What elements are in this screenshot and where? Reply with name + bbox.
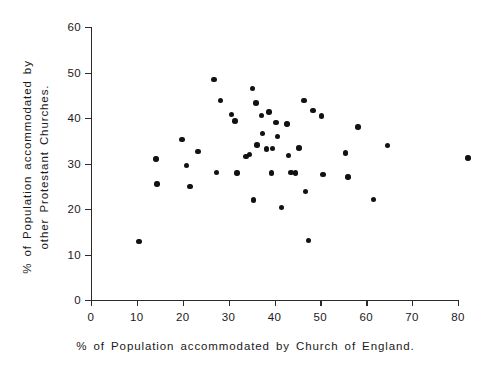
y-tick bbox=[85, 118, 91, 119]
x-tick-label: 30 bbox=[222, 311, 236, 323]
data-point bbox=[284, 121, 289, 126]
y-tick bbox=[85, 27, 91, 28]
x-tick bbox=[458, 300, 459, 306]
data-point bbox=[343, 150, 348, 155]
y-axis-label-line2: other Protestant Churches. bbox=[38, 85, 50, 250]
data-point bbox=[320, 172, 325, 177]
x-axis-label: % of Population accommodated by Church o… bbox=[0, 340, 491, 352]
x-tick bbox=[229, 300, 230, 306]
data-point bbox=[269, 170, 274, 175]
scatter-plot-figure: 0102030405060 01020304050607080 % of Pop… bbox=[0, 0, 491, 375]
x-tick-label: 50 bbox=[314, 311, 328, 323]
y-tick-label: 40 bbox=[67, 112, 81, 124]
data-point bbox=[345, 174, 350, 179]
y-axis-line bbox=[91, 27, 92, 300]
data-point bbox=[229, 112, 234, 117]
x-tick-label: 80 bbox=[451, 311, 465, 323]
data-point bbox=[266, 109, 271, 114]
plot-area: 0102030405060 01020304050607080 bbox=[91, 27, 458, 300]
data-point bbox=[371, 197, 376, 202]
y-tick bbox=[85, 164, 91, 165]
data-point bbox=[310, 108, 315, 113]
x-tick bbox=[275, 300, 276, 306]
data-point bbox=[293, 170, 298, 175]
data-point bbox=[247, 152, 252, 157]
x-tick bbox=[412, 300, 413, 306]
data-point bbox=[184, 163, 189, 168]
data-point bbox=[296, 145, 301, 150]
y-tick bbox=[85, 255, 91, 256]
data-point bbox=[319, 113, 324, 118]
x-tick-label: 20 bbox=[176, 311, 190, 323]
data-point bbox=[250, 86, 255, 91]
data-point bbox=[303, 189, 308, 194]
x-tick-label: 60 bbox=[359, 311, 373, 323]
data-point bbox=[179, 137, 184, 142]
data-point bbox=[254, 142, 259, 147]
data-point bbox=[214, 170, 219, 175]
y-axis-label-line1: % of Population accommodated by bbox=[21, 60, 33, 274]
y-tick-label: 10 bbox=[67, 249, 81, 261]
x-tick bbox=[366, 300, 367, 306]
data-point bbox=[153, 156, 158, 161]
data-point bbox=[465, 155, 470, 160]
data-point bbox=[154, 181, 159, 186]
data-point bbox=[301, 98, 306, 103]
data-point bbox=[275, 134, 280, 139]
data-point bbox=[234, 170, 239, 175]
x-tick bbox=[320, 300, 321, 306]
data-point bbox=[279, 205, 284, 210]
y-tick-label: 30 bbox=[67, 158, 81, 170]
data-point bbox=[273, 120, 278, 125]
data-point bbox=[286, 153, 291, 158]
data-point bbox=[355, 124, 360, 129]
data-point bbox=[195, 149, 200, 154]
y-tick bbox=[85, 73, 91, 74]
x-tick bbox=[183, 300, 184, 306]
y-tick bbox=[85, 209, 91, 210]
data-point bbox=[306, 238, 311, 243]
y-tick-label: 20 bbox=[67, 203, 81, 215]
x-tick-label: 40 bbox=[268, 311, 282, 323]
data-point bbox=[385, 143, 390, 148]
data-point bbox=[264, 146, 269, 151]
data-point bbox=[232, 118, 237, 123]
x-tick-label: 0 bbox=[88, 311, 95, 323]
data-point bbox=[187, 184, 192, 189]
y-axis-label: % of Population accommodated by other Pr… bbox=[19, 37, 53, 297]
y-tick-label: 60 bbox=[67, 21, 81, 33]
data-point bbox=[259, 113, 264, 118]
y-tick-label: 0 bbox=[74, 294, 81, 306]
data-point bbox=[251, 197, 256, 202]
y-tick-label: 50 bbox=[67, 67, 81, 79]
data-point bbox=[211, 77, 216, 82]
data-point bbox=[260, 131, 265, 136]
x-tick bbox=[91, 300, 92, 306]
data-point bbox=[270, 146, 275, 151]
data-point bbox=[218, 98, 223, 103]
x-tick bbox=[137, 300, 138, 306]
data-point bbox=[136, 239, 141, 244]
data-point bbox=[253, 100, 258, 105]
x-tick-label: 10 bbox=[130, 311, 144, 323]
x-tick-label: 70 bbox=[405, 311, 419, 323]
